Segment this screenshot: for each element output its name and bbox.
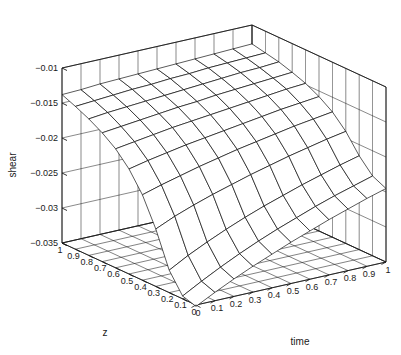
mesh-surface: [62, 44, 386, 307]
tick-label: 0.4: [134, 282, 147, 292]
tick-label: 0.1: [174, 300, 187, 310]
tick-label: 1: [385, 265, 390, 275]
tick-label: −0.01: [35, 63, 58, 73]
tick-label: −0.015: [30, 98, 58, 108]
tick-label: −0.035: [30, 238, 58, 248]
tick-label: 0.9: [67, 251, 80, 261]
plot-canvas: −0.01−0.015−0.02−0.025−0.03−0.03510.90.8…: [0, 0, 401, 355]
tick-label: 0.5: [121, 276, 134, 286]
tick-label: 0.5: [287, 286, 300, 296]
tick-label: 0.2: [230, 299, 243, 309]
grid-line: [62, 243, 67, 246]
tick-label: 0.4: [268, 290, 281, 300]
tick-label: 0.7: [325, 277, 338, 287]
grid-line: [62, 103, 67, 106]
tick-label: 0: [195, 308, 200, 318]
tick-label: −0.02: [35, 133, 58, 143]
tick-label: 0.3: [148, 288, 161, 298]
tick-label: 1: [57, 245, 62, 255]
tick-label: 0.9: [363, 269, 376, 279]
tick-label: 0.7: [94, 263, 107, 273]
surface-plot-figure: −0.01−0.015−0.02−0.025−0.03−0.03510.90.8…: [0, 0, 401, 355]
grid-line: [62, 138, 67, 141]
grid-line: [62, 173, 67, 176]
tick-label: 0.3: [249, 295, 262, 305]
tick-label: 0.8: [344, 273, 357, 283]
tick-label: −0.03: [35, 203, 58, 213]
tick-label: 0.6: [107, 269, 120, 279]
tick-label: 0.1: [211, 303, 224, 313]
tick-label: −0.025: [30, 168, 58, 178]
tick-label: 0.6: [306, 282, 319, 292]
grid-line: [62, 68, 67, 71]
tick-label: 0.8: [81, 257, 94, 267]
grid-line: [62, 208, 67, 211]
tick-label: 0.2: [161, 294, 174, 304]
